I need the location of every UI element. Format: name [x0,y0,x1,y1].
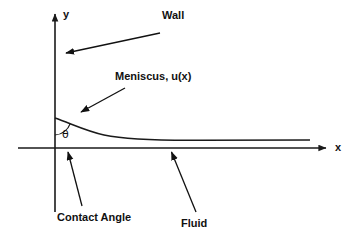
y-axis-label: y [63,9,69,20]
x-axis-label: x [335,142,341,153]
meniscus-curve [55,118,310,140]
wall-label: Wall [162,10,184,21]
wall-callout-arrow [66,33,160,53]
meniscus-label: Meniscus, u(x) [115,71,191,82]
fluid-label: Fluid [181,218,207,229]
contact-angle-symbol: θ [62,129,69,140]
contact-angle-label: Contact Angle [57,212,131,223]
contact-angle-callout-arrow [68,152,82,206]
meniscus-diagram: x y θ Wall Meniscus, u(x) Contact Angle … [0,0,359,243]
meniscus-callout-arrow [81,88,125,112]
diagram-canvas [0,0,359,243]
fluid-callout-arrow [172,152,197,212]
